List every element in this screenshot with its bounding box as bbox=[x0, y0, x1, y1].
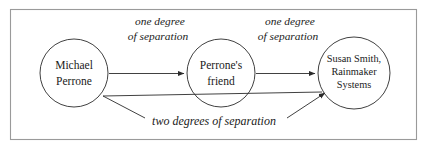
edge-michael-to-susan-left-leader bbox=[103, 96, 145, 118]
edge-label-two-degrees: two degrees of separation bbox=[152, 114, 276, 128]
edge-michael-to-susan-lower-segment bbox=[103, 92, 322, 96]
node-perrones-friend-line-2: friend bbox=[207, 75, 235, 87]
edge-label-one-degree-2-line-1: one degree bbox=[265, 15, 315, 27]
node-michael-perrone-line-1: Michael bbox=[55, 59, 93, 71]
node-susan-smith-line-2: Rainmaker bbox=[331, 66, 377, 77]
node-perrones-friend-line-1: Perrone's bbox=[200, 59, 243, 71]
edge-label-one-degree-1-line-1: one degree bbox=[135, 15, 185, 27]
node-michael-perrone-line-2: Perrone bbox=[56, 75, 92, 87]
node-michael-perrone[interactable] bbox=[40, 39, 108, 107]
diagram-figure: Michael Perrone Perrone's friend Susan S… bbox=[0, 0, 427, 150]
edge-michael-to-susan-right-arrow bbox=[287, 93, 325, 118]
node-susan-smith-line-1: Susan Smith, bbox=[327, 53, 381, 64]
node-perrones-friend[interactable] bbox=[187, 39, 255, 107]
edge-label-one-degree-2-line-2: of separation bbox=[258, 30, 319, 42]
diagram-canvas: Michael Perrone Perrone's friend Susan S… bbox=[0, 0, 427, 150]
edge-label-one-degree-1-line-2: of separation bbox=[128, 30, 189, 42]
node-susan-smith-line-3: Systems bbox=[337, 79, 371, 90]
